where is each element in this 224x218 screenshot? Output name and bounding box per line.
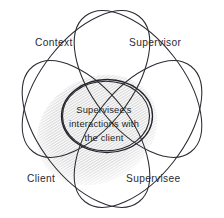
center-label-line-1: Supervisee's	[76, 105, 131, 115]
label-supervisor: Supervisor	[129, 37, 181, 48]
venn-diagram-svg: Context Supervisor Client Supervisee Sup…	[0, 0, 224, 218]
label-client: Client	[27, 173, 55, 184]
shaded-overlap-region	[14, 50, 180, 209]
label-supervisee: Supervisee	[126, 173, 180, 184]
venn-diagram-container: Context Supervisor Client Supervisee Sup…	[0, 0, 224, 218]
center-label-line-3: the client	[84, 133, 123, 143]
label-context: Context	[35, 37, 73, 48]
center-label-line-2: interactions with	[69, 119, 139, 129]
